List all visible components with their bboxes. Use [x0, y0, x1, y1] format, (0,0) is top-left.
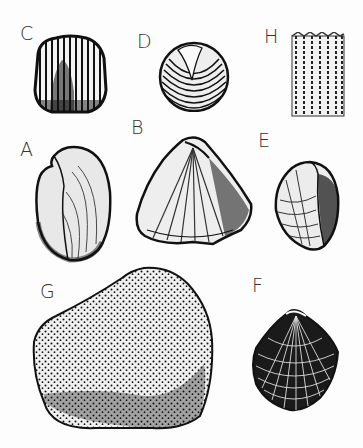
figure-h-columnar-fragment — [290, 32, 346, 118]
figure-label-e: E — [258, 131, 270, 150]
figure-label-h: H — [264, 27, 278, 46]
figure-label-f: F — [252, 276, 263, 295]
figure-e-crosshatched-bivalve — [272, 160, 342, 252]
figure-b-triangular-shell — [133, 134, 255, 248]
figure-a-dotted-bivalve — [34, 142, 114, 264]
figure-d-concentric-shell — [158, 40, 230, 112]
figure-label-d: D — [137, 32, 152, 51]
figure-label-a: A — [20, 140, 33, 159]
fossil-plate: C D — [0, 0, 363, 448]
figure-c-ribbed-shell — [30, 32, 110, 116]
figure-f-reticulate-bivalve — [250, 308, 340, 412]
figure-g-stippled-mold — [32, 264, 214, 432]
